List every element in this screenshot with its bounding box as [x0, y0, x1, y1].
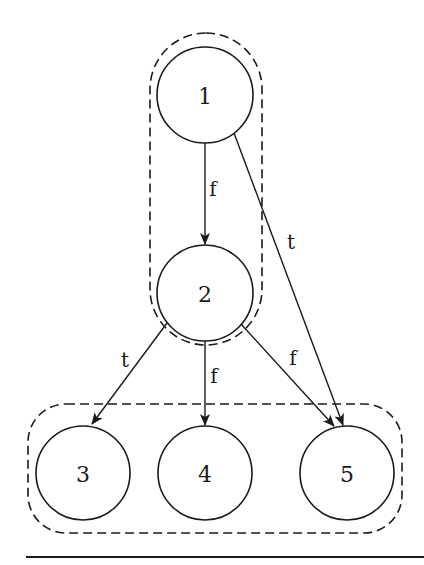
- node-label-4: 4: [198, 462, 212, 487]
- edge-label-2-5: f: [289, 346, 298, 370]
- edge-label-2-3: t: [121, 348, 129, 372]
- edge-label-1-2: f: [209, 177, 218, 201]
- node-label-2: 2: [198, 282, 212, 307]
- edge-label-1-5: t: [287, 230, 295, 254]
- node-label-1: 1: [198, 84, 212, 109]
- node-label-5: 5: [340, 462, 354, 487]
- node-3: 3: [36, 426, 130, 520]
- edge-2-3: t: [92, 323, 167, 424]
- edge-2-5: f: [241, 324, 334, 426]
- node-5: 5: [300, 426, 394, 520]
- node-4: 4: [158, 426, 252, 520]
- node-1: 1: [157, 47, 253, 143]
- node-label-3: 3: [76, 462, 90, 487]
- flow-graph-diagram: f t t f f 1 2 3 4 5: [0, 0, 424, 565]
- edge-label-2-4: f: [210, 364, 219, 388]
- edge-2-4: f: [205, 341, 219, 425]
- node-2: 2: [157, 245, 253, 341]
- edge-1-2: f: [205, 143, 218, 244]
